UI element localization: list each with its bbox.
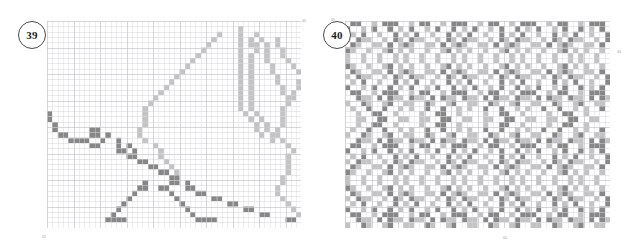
stitch-chart-39 (47, 21, 301, 228)
corner-mark-bottom-left-39: 42 (42, 235, 46, 239)
corner-mark-right-40: 34 (617, 50, 621, 54)
corner-mark-top-right-39: 40 (302, 19, 306, 23)
corner-mark-bottom-40: 00 (503, 236, 507, 240)
chart-panel-39: 39 40 42 (0, 0, 318, 249)
chart-number-badge-40: 40 (323, 21, 351, 49)
stitch-chart-40 (345, 21, 610, 228)
chart-panel-40: 40 40 34 00 (318, 0, 637, 249)
chart-number-badge-39: 39 (18, 21, 46, 49)
pattern-chart-page: 39 40 42 40 40 34 00 (0, 0, 637, 249)
